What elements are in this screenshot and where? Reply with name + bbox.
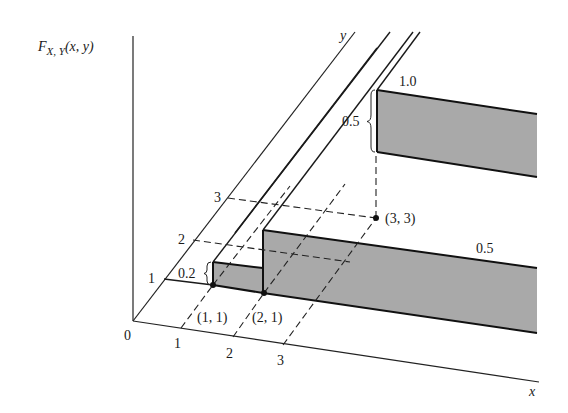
y-tick-1: 1 [148,271,155,286]
x-tick-1: 1 [174,336,181,351]
y-tick-3: 3 [214,190,221,205]
joint-cdf-diagram: FX, Y(x, y) y x 0 1 2 3 1 2 3 (1, 1) (2,… [0,0,568,413]
point-3-3 [373,215,379,221]
point-label-1-1: (1, 1) [197,310,228,326]
x-tick-3: 3 [277,353,284,368]
label-upper-band-1-0: 1.0 [399,74,417,89]
point-2-1 [261,290,267,296]
label-jump-0-2: 0.2 [178,266,196,281]
x1-ridge-line [235,48,377,233]
brace-0-5 [367,90,375,152]
label-jump-0-5: 0.5 [342,114,360,129]
y-tick-2: 2 [178,232,185,247]
y3-dashed [228,198,376,218]
lower-band-face [263,230,537,333]
label-lower-band-0-5: 0.5 [476,241,494,256]
y-axis-label: y [338,28,347,43]
f-axis-label: FX, Y(x, y) [37,39,94,57]
x-tick-2: 2 [226,346,233,361]
point-label-2-1: (2, 1) [252,310,283,326]
point-label-3-3: (3, 3) [385,211,416,227]
x-axis [133,321,539,382]
x-axis-label: x [528,384,536,399]
origin-label: 0 [124,328,131,343]
brace-0-2 [204,262,211,285]
